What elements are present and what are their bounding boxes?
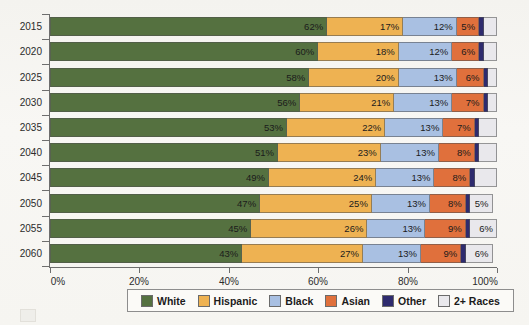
bar-value-label: 62%	[304, 21, 323, 32]
bar-value-label: 58%	[286, 72, 305, 83]
bar-row: 62%17%12%5%	[50, 17, 497, 36]
bar-value-label: 25%	[349, 198, 368, 209]
x-axis-tick	[50, 268, 51, 273]
x-axis-label: 40%	[219, 276, 239, 287]
bar-segment-2-races	[475, 168, 497, 187]
bar-value-label: 27%	[340, 248, 359, 259]
bar-segment-white: 51%	[50, 143, 278, 162]
bar-value-label: 21%	[371, 97, 390, 108]
bar-value-label: 13%	[429, 97, 448, 108]
bar-segment-white: 56%	[50, 93, 300, 112]
bar-value-label: 8%	[448, 198, 462, 209]
bar-value-label: 8%	[457, 147, 471, 158]
bar-segment-black: 13%	[385, 118, 443, 137]
y-axis-tick	[42, 90, 50, 91]
legend-label: Black	[285, 295, 313, 307]
bar-value-label: 43%	[219, 248, 238, 259]
bar-segment-white: 45%	[50, 219, 251, 238]
bar-segment-hispanic: 23%	[278, 143, 381, 162]
bar-segment-white: 58%	[50, 68, 309, 87]
bar-value-label: 56%	[277, 97, 296, 108]
bar-segment-2-races	[479, 143, 497, 162]
bar-segment-2-races	[488, 68, 497, 87]
legend-swatch-icon	[382, 295, 394, 307]
bar-segment-hispanic: 27%	[242, 244, 363, 263]
bar-segment-asian: 7%	[443, 118, 474, 137]
bar-segment-2-races	[484, 17, 497, 36]
y-axis-tick	[42, 241, 50, 242]
bar-segment-asian: 9%	[425, 219, 465, 238]
x-axis-label: 0%	[51, 276, 65, 287]
bar-value-label: 9%	[443, 248, 457, 259]
bar-row: 56%21%13%7%	[50, 93, 497, 112]
x-axis-label: 80%	[398, 276, 418, 287]
bar-value-label: 20%	[376, 72, 395, 83]
legend-swatch-icon	[269, 295, 281, 307]
bar-value-label: 18%	[376, 46, 395, 57]
x-axis-tick	[318, 268, 319, 273]
y-axis-tick	[42, 64, 50, 65]
bar-value-label: 26%	[344, 223, 363, 234]
bar-segment-white: 47%	[50, 194, 260, 213]
stacked-bar-chart: 2015202020252030203520402045205020552060…	[0, 0, 529, 325]
bar-segment-hispanic: 26%	[251, 219, 367, 238]
y-axis-label: 2030	[0, 97, 42, 108]
legend-item-2-races[interactable]: 2+ Races	[438, 295, 500, 307]
x-axis-label: 60%	[308, 276, 328, 287]
bar-row: 49%24%13%8%	[50, 168, 497, 187]
bar-row: 43%27%13%9%6%	[50, 244, 497, 263]
y-axis-tick	[42, 165, 50, 166]
bar-value-label: 47%	[237, 198, 256, 209]
bar-segment-hispanic: 24%	[269, 168, 376, 187]
y-axis-tick	[42, 14, 50, 15]
y-axis-tick	[42, 190, 50, 191]
bar-segment-hispanic: 25%	[260, 194, 372, 213]
y-axis-label: 2050	[0, 198, 42, 209]
y-axis-label: 2015	[0, 21, 42, 32]
y-axis-label: 2020	[0, 46, 42, 57]
bar-value-label: 17%	[380, 21, 399, 32]
legend-swatch-icon	[141, 295, 153, 307]
bar-value-label: 12%	[434, 21, 453, 32]
bar-value-label: 49%	[246, 172, 265, 183]
bar-segment-2-races	[484, 42, 497, 61]
x-axis-tick	[139, 268, 140, 273]
bar-segment-asian: 8%	[439, 143, 475, 162]
bar-segment-hispanic: 21%	[300, 93, 394, 112]
y-axis-tick	[42, 140, 50, 141]
bar-value-label: 13%	[407, 198, 426, 209]
y-axis-label: 2040	[0, 147, 42, 158]
bar-segment-white: 60%	[50, 42, 318, 61]
legend-swatch-icon	[438, 295, 450, 307]
legend-label: Asian	[341, 295, 370, 307]
legend-label: White	[157, 295, 186, 307]
legend-item-hispanic[interactable]: Hispanic	[198, 295, 258, 307]
legend-item-other[interactable]: Other	[382, 295, 426, 307]
bar-segment-asian: 5%	[457, 17, 479, 36]
legend-item-white[interactable]: White	[141, 295, 186, 307]
bar-segment-hispanic: 17%	[327, 17, 403, 36]
bar-segment-white: 62%	[50, 17, 327, 36]
bar-segment-asian: 9%	[421, 244, 461, 263]
bar-segment-2-races	[479, 118, 497, 137]
bar-segment-asian: 6%	[457, 68, 484, 87]
legend-label: Other	[398, 295, 426, 307]
legend-label: 2+ Races	[454, 295, 500, 307]
bar-segment-black: 12%	[399, 42, 453, 61]
bar-segment-2-races: 6%	[470, 219, 497, 238]
x-axis-label: 100%	[472, 276, 498, 287]
bar-row: 53%22%13%7%	[50, 118, 497, 137]
bar-row: 58%20%13%6%	[50, 68, 497, 87]
x-axis-line	[49, 267, 497, 268]
legend-label: Hispanic	[214, 295, 258, 307]
y-axis-tick	[42, 39, 50, 40]
legend-item-asian[interactable]: Asian	[325, 295, 370, 307]
bar-value-label: 13%	[434, 72, 453, 83]
y-axis-tick	[42, 266, 50, 267]
y-axis-label: 2060	[0, 248, 42, 259]
legend-item-black[interactable]: Black	[269, 295, 313, 307]
x-axis-tick	[497, 268, 498, 273]
bar-segment-black: 13%	[381, 143, 439, 162]
legend-swatch-icon	[198, 295, 210, 307]
y-axis-tick	[42, 216, 50, 217]
